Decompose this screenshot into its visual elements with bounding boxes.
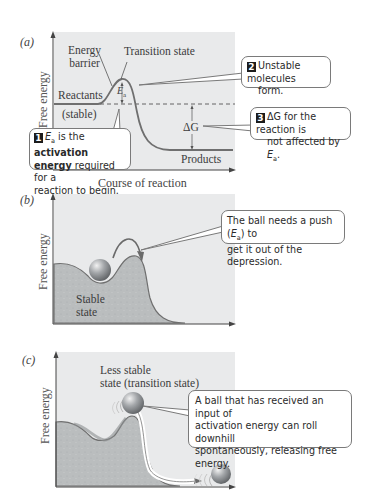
callout-ball-rolls: A ball that has received an input of act… — [188, 390, 352, 448]
callout-c-line4: energy. — [195, 458, 345, 471]
panel-c-y-axis-label: Free energy — [38, 387, 53, 444]
callout-c-line3: spontaneously, releasing free — [195, 445, 345, 458]
less-stable-state-label: Less stable state (transition state) — [100, 364, 199, 390]
less-stable-line1: Less stable — [100, 364, 199, 377]
callout-c-line1: A ball that has received an input of — [195, 395, 345, 420]
less-stable-line2: state (transition state) — [100, 377, 199, 390]
callout-c-line2: activation energy can roll downhill — [195, 420, 345, 445]
